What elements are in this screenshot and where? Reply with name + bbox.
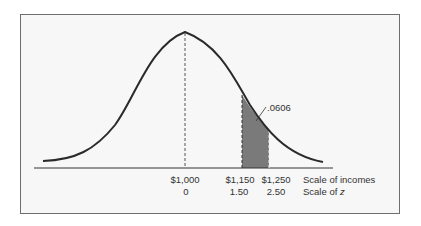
income-tick-1000: $1,000 bbox=[170, 174, 199, 185]
z-variable: z bbox=[340, 186, 345, 197]
income-tick-1250: $1,250 bbox=[261, 174, 290, 185]
z-tick-250: 2.50 bbox=[267, 186, 286, 197]
normal-curve-plot bbox=[0, 0, 421, 226]
income-tick-1150: $1,150 bbox=[225, 174, 254, 185]
shaded-area bbox=[242, 95, 269, 168]
income-scale-label: Scale of incomes bbox=[303, 174, 375, 185]
bell-curve bbox=[43, 32, 323, 162]
area-label: .0606 bbox=[267, 102, 291, 113]
area-pointer-line bbox=[256, 107, 266, 121]
z-scale-label: Scale of z bbox=[303, 186, 345, 197]
z-tick-150: 1.50 bbox=[230, 186, 249, 197]
z-scale-prefix: Scale of bbox=[303, 186, 340, 197]
z-tick-0: 0 bbox=[183, 186, 188, 197]
